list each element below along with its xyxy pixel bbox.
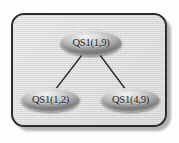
edge-root-to-left: [55, 55, 82, 90]
node-qs1-left-child[interactable]: QS1(1,2): [21, 88, 80, 112]
node-label: QS1(4,9): [112, 95, 149, 106]
edge-root-to-right: [100, 55, 126, 90]
node-label: QS1(1,2): [32, 95, 69, 106]
node-qs1-root[interactable]: QS1(1,9): [60, 30, 122, 56]
node-qs1-right-child[interactable]: QS1(4,9): [101, 88, 160, 112]
diagram-canvas: QS1(1,9) QS1(1,2) QS1(4,9): [0, 0, 179, 143]
edge-connectors: [0, 0, 179, 143]
node-label: QS1(1,9): [72, 38, 109, 49]
